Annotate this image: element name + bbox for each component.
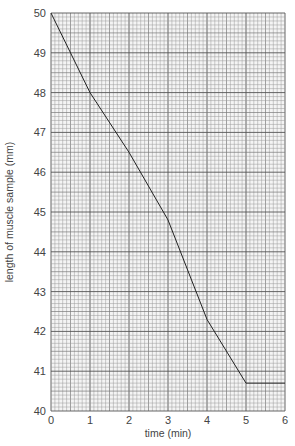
x-axis-ticks: 0123456: [48, 414, 288, 426]
y-tick-label: 41: [34, 365, 46, 377]
y-axis-ticks: 4041424344454647484950: [34, 7, 46, 417]
y-tick-label: 46: [34, 166, 46, 178]
y-tick-label: 44: [34, 246, 46, 258]
y-tick-label: 49: [34, 47, 46, 59]
x-tick-label: 2: [126, 414, 132, 426]
y-tick-label: 42: [34, 325, 46, 337]
y-tick-label: 40: [34, 405, 46, 417]
y-tick-label: 43: [34, 286, 46, 298]
x-tick-label: 4: [204, 414, 210, 426]
x-tick-label: 6: [282, 414, 288, 426]
x-tick-label: 1: [87, 414, 93, 426]
y-tick-label: 45: [34, 206, 46, 218]
x-tick-label: 0: [48, 414, 54, 426]
x-tick-label: 5: [243, 414, 249, 426]
y-tick-label: 50: [34, 7, 46, 19]
line-chart: 0123456 4041424344454647484950 time (min…: [0, 0, 295, 446]
y-tick-label: 48: [34, 87, 46, 99]
x-axis-label: time (min): [145, 427, 192, 439]
graph-paper-grid: [51, 13, 285, 411]
y-axis-label: length of muscle sample (mm): [3, 142, 15, 283]
y-tick-label: 47: [34, 126, 46, 138]
x-tick-label: 3: [165, 414, 171, 426]
